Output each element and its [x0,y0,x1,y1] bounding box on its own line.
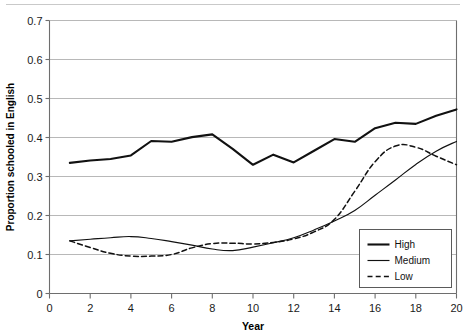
chart-legend[interactable]: HighMediumLow [360,230,452,288]
y-tick-label-0.2: 0.2 [27,210,42,222]
y-axis-title: Proportion schooled in English [5,83,16,231]
line-chart-canvas: 00.10.20.30.40.50.60.7 02468101214161820… [0,0,466,335]
x-axis-title: Year [242,320,264,332]
x-tick-label-0: 0 [46,302,52,314]
legend-label-medium: Medium [395,255,431,266]
x-tick-label-4: 4 [128,302,134,314]
x-tick-label-8: 8 [209,302,215,314]
x-tick-label-12: 12 [288,302,300,314]
page-top-rule [6,4,460,5]
legend-label-low: Low [395,271,414,282]
y-tick-label-0.3: 0.3 [27,171,42,183]
x-tick-label-6: 6 [169,302,175,314]
chart-figure: 00.10.20.30.40.50.60.7 02468101214161820… [0,0,466,335]
x-tick-label-14: 14 [328,302,340,314]
y-tick-label-layer: 00.10.20.30.40.50.60.7 [27,15,49,300]
legend-label-high: High [395,239,416,250]
y-tick-label-0.7: 0.7 [27,15,42,27]
y-tick-label-0.5: 0.5 [27,93,42,105]
x-tick-label-10: 10 [247,302,259,314]
x-tick-label-16: 16 [369,302,381,314]
y-tick-label-0.4: 0.4 [27,132,42,144]
x-tick-label-2: 2 [87,302,93,314]
x-tick-label-layer: 02468101214161820 [46,294,462,314]
y-tick-label-0.1: 0.1 [27,249,42,261]
x-tick-label-20: 20 [450,302,462,314]
y-tick-label-0: 0 [36,288,42,300]
y-tick-label-0.6: 0.6 [27,54,42,66]
x-tick-label-18: 18 [410,302,422,314]
